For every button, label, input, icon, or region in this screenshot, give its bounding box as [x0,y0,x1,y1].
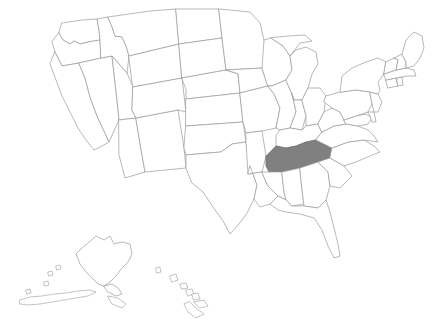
state-arkansas[interactable] [246,131,266,174]
state-kansas[interactable] [186,93,243,126]
state-newmexico[interactable] [136,110,186,172]
state-washington[interactable] [59,19,100,44]
state-newyork[interactable] [340,58,386,94]
us-map-container [0,0,434,329]
inset-hawaii[interactable] [156,267,208,318]
state-minnesota[interactable] [219,9,268,70]
state-texas[interactable] [186,142,257,234]
inset-alaska[interactable] [20,236,132,308]
state-newjersey[interactable] [370,92,382,112]
state-rhodeisland[interactable] [397,77,403,86]
us-states-map [0,0,434,329]
